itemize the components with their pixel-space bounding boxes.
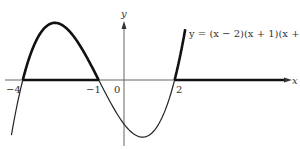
y-axis-arrow-icon	[122, 21, 127, 29]
tick-label-neg1: −1	[86, 84, 101, 95]
tick-label-0: 0	[114, 84, 120, 95]
cubic-graph-figure: −4 −1 0 2 x y y = (x − 2)(x + 1)(x + 4)	[0, 0, 300, 150]
tick-label-neg4: −4	[6, 84, 21, 95]
cubic-curve-positive-region-right	[175, 29, 186, 80]
tick-label-2: 2	[176, 84, 182, 95]
cubic-curve-positive-region-left	[23, 23, 99, 80]
x-axis-arrow-icon	[284, 78, 292, 83]
equation-label: y = (x − 2)(x + 1)(x + 4)	[188, 28, 300, 39]
graph-canvas: −4 −1 0 2 x y y = (x − 2)(x + 1)(x + 4)	[0, 0, 300, 150]
y-axis-label: y	[120, 8, 127, 19]
x-axis-label: x	[292, 75, 298, 86]
